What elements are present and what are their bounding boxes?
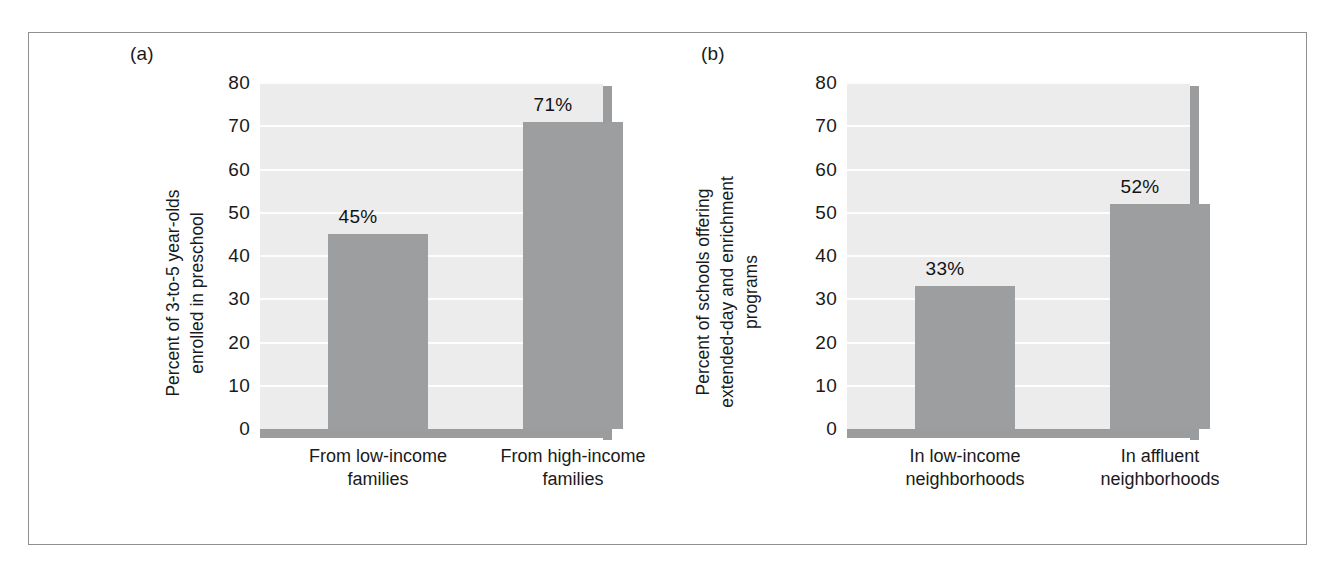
plot-floor bbox=[260, 429, 612, 438]
y-axis-tick-label: 10 bbox=[815, 375, 837, 397]
x-axis-labels-a: From low-incomefamiliesFrom high-incomef… bbox=[260, 445, 603, 505]
x-axis-label-line: families bbox=[500, 468, 645, 491]
y-axis-tick-label: 20 bbox=[815, 332, 837, 354]
bar-value-label: 52% bbox=[1121, 176, 1160, 198]
y-axis-tick-label: 30 bbox=[815, 288, 837, 310]
gridline bbox=[847, 82, 1190, 84]
x-axis-category-label: In low-incomeneighborhoods bbox=[905, 445, 1024, 491]
y-axis-tick-label: 70 bbox=[815, 115, 837, 137]
bar bbox=[915, 286, 1015, 429]
bar bbox=[328, 234, 428, 429]
x-axis-label-line: In affluent bbox=[1100, 445, 1219, 468]
bar bbox=[523, 122, 623, 429]
gridline bbox=[847, 169, 1190, 171]
plot-floor bbox=[847, 429, 1199, 438]
y-axis-tick-label: 10 bbox=[228, 375, 250, 397]
y-axis-tick-label: 0 bbox=[239, 418, 250, 440]
chart-panel-b: (b) Percent of schools offering extended… bbox=[669, 33, 1308, 546]
y-axis-tick-label: 50 bbox=[228, 202, 250, 224]
y-axis-title-line: extended-day and enrichment bbox=[715, 89, 739, 495]
bar-value-label: 71% bbox=[534, 94, 573, 116]
panel-label-b: (b) bbox=[701, 43, 725, 65]
x-axis-label-line: In low-income bbox=[905, 445, 1024, 468]
panel-label-a: (a) bbox=[130, 43, 154, 65]
chart-panel-a: (a) Percent of 3-to-5 year-olds enrolled… bbox=[29, 33, 669, 546]
y-axis-tick-label: 30 bbox=[228, 288, 250, 310]
y-axis-title-line: enrolled in preschool bbox=[185, 98, 209, 488]
gridline bbox=[847, 125, 1190, 127]
y-axis-tick-label: 70 bbox=[228, 115, 250, 137]
y-axis-tick-label: 50 bbox=[815, 202, 837, 224]
bar bbox=[1110, 204, 1210, 429]
x-axis-label-line: From high-income bbox=[500, 445, 645, 468]
x-axis-category-label: In affluentneighborhoods bbox=[1100, 445, 1219, 491]
plot-area-b: 33%52% bbox=[847, 83, 1190, 429]
bar-value-label: 33% bbox=[926, 258, 965, 280]
y-axis-title-line: Percent of schools offering bbox=[691, 89, 715, 495]
y-axis-tick-label: 0 bbox=[826, 418, 837, 440]
bar-value-label: 45% bbox=[339, 206, 378, 228]
gridline bbox=[260, 82, 603, 84]
y-axis-tick-label: 80 bbox=[815, 72, 837, 94]
x-axis-labels-b: In low-incomeneighborhoodsIn affluentnei… bbox=[847, 445, 1190, 505]
x-axis-label-line: neighborhoods bbox=[905, 468, 1024, 491]
y-axis-tick-label: 60 bbox=[228, 159, 250, 181]
plot-wrapper-a: 80706050403020100 45%71% From low-income… bbox=[212, 83, 603, 474]
y-axis-tick-label: 80 bbox=[228, 72, 250, 94]
y-axis-title-a: Percent of 3-to-5 year-olds enrolled in … bbox=[161, 98, 209, 488]
y-axis-tick-label: 20 bbox=[228, 332, 250, 354]
y-axis-title-line: Percent of 3-to-5 year-olds bbox=[161, 98, 185, 488]
figure-frame: (a) Percent of 3-to-5 year-olds enrolled… bbox=[28, 32, 1307, 545]
y-axis-tick-label: 40 bbox=[815, 245, 837, 267]
x-axis-category-label: From low-incomefamilies bbox=[309, 445, 447, 491]
x-axis-label-line: neighborhoods bbox=[1100, 468, 1219, 491]
y-axis-title-b: Percent of schools offering extended-day… bbox=[691, 89, 763, 495]
plot-area-a: 45%71% bbox=[260, 83, 603, 429]
y-axis-title-line: programs bbox=[739, 89, 763, 495]
x-axis-label-line: families bbox=[309, 468, 447, 491]
x-axis-category-label: From high-incomefamilies bbox=[500, 445, 645, 491]
y-axis-ticks-a: 80706050403020100 bbox=[212, 83, 250, 474]
plot-wrapper-b: 80706050403020100 33%52% In low-incomene… bbox=[799, 83, 1190, 474]
y-axis-ticks-b: 80706050403020100 bbox=[799, 83, 837, 474]
y-axis-tick-label: 40 bbox=[228, 245, 250, 267]
x-axis-label-line: From low-income bbox=[309, 445, 447, 468]
y-axis-tick-label: 60 bbox=[815, 159, 837, 181]
